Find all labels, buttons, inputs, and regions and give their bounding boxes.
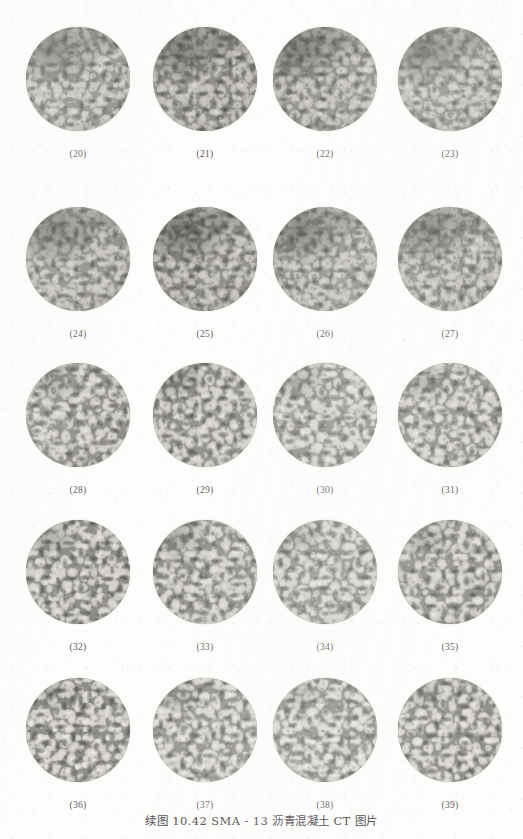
ct-image-label: (25): [146, 329, 264, 339]
ct-shading-overlay: [273, 207, 377, 311]
ct-image-label: (28): [19, 485, 137, 495]
ct-image-label: (20): [19, 149, 137, 159]
ct-slice-image: [273, 520, 377, 624]
ct-image-cell: (35): [391, 520, 509, 652]
ct-image-cell: (38): [266, 678, 384, 810]
ct-image-label: (26): [266, 329, 384, 339]
ct-shading-overlay: [153, 27, 257, 131]
ct-image-label: (38): [266, 800, 384, 810]
ct-image-label: (36): [19, 800, 137, 810]
ct-slice-image: [153, 27, 257, 131]
ct-image-label: (27): [391, 329, 509, 339]
ct-image-label: (22): [266, 149, 384, 159]
ct-shading-overlay: [153, 520, 257, 624]
ct-image-grid: (20)(21)(22)(23)(24)(25)(26)(27)(28)(29)…: [0, 0, 523, 812]
ct-image-cell: (25): [146, 207, 264, 339]
ct-image-cell: (27): [391, 207, 509, 339]
ct-slice-image: [26, 207, 130, 311]
ct-slice-image: [26, 678, 130, 782]
ct-image-label: (32): [19, 642, 137, 652]
ct-image-cell: (26): [266, 207, 384, 339]
ct-image-cell: (36): [19, 678, 137, 810]
ct-slice-image: [398, 363, 502, 467]
ct-image-label: (30): [266, 485, 384, 495]
ct-slice-image: [398, 520, 502, 624]
ct-image-cell: (28): [19, 363, 137, 495]
ct-slice-image: [26, 27, 130, 131]
ct-image-label: (34): [266, 642, 384, 652]
ct-image-label: (29): [146, 485, 264, 495]
ct-image-cell: (33): [146, 520, 264, 652]
ct-shading-overlay: [26, 678, 130, 782]
ct-shading-overlay: [26, 207, 130, 311]
ct-shading-overlay: [153, 363, 257, 467]
ct-image-label: (24): [19, 329, 137, 339]
ct-shading-overlay: [398, 207, 502, 311]
ct-slice-image: [26, 363, 130, 467]
ct-image-cell: (23): [391, 27, 509, 159]
ct-slice-image: [153, 363, 257, 467]
ct-image-cell: (34): [266, 520, 384, 652]
ct-image-cell: (30): [266, 363, 384, 495]
ct-shading-overlay: [398, 678, 502, 782]
ct-image-label: (35): [391, 642, 509, 652]
ct-image-cell: (21): [146, 27, 264, 159]
ct-image-label: (23): [391, 149, 509, 159]
ct-slice-image: [26, 520, 130, 624]
figure-caption: 续图 10.42 SMA - 13 沥青混凝土 CT 图片: [0, 812, 523, 828]
ct-slice-image: [398, 27, 502, 131]
ct-image-label: (31): [391, 485, 509, 495]
ct-slice-image: [273, 27, 377, 131]
ct-image-cell: (20): [19, 27, 137, 159]
ct-slice-image: [398, 678, 502, 782]
ct-image-cell: (32): [19, 520, 137, 652]
ct-slice-image: [273, 207, 377, 311]
ct-image-cell: (37): [146, 678, 264, 810]
ct-image-label: (21): [146, 149, 264, 159]
ct-image-label: (39): [391, 800, 509, 810]
ct-shading-overlay: [273, 520, 377, 624]
ct-image-cell: (29): [146, 363, 264, 495]
ct-slice-image: [273, 363, 377, 467]
ct-slice-image: [153, 520, 257, 624]
ct-shading-overlay: [26, 520, 130, 624]
ct-image-label: (37): [146, 800, 264, 810]
ct-shading-overlay: [26, 27, 130, 131]
ct-image-label: (33): [146, 642, 264, 652]
ct-shading-overlay: [398, 520, 502, 624]
ct-image-cell: (24): [19, 207, 137, 339]
ct-shading-overlay: [398, 27, 502, 131]
ct-slice-image: [153, 207, 257, 311]
ct-shading-overlay: [398, 363, 502, 467]
ct-shading-overlay: [273, 678, 377, 782]
ct-shading-overlay: [273, 27, 377, 131]
ct-image-cell: (39): [391, 678, 509, 810]
ct-slice-image: [273, 678, 377, 782]
ct-shading-overlay: [153, 678, 257, 782]
ct-slice-image: [153, 678, 257, 782]
ct-image-cell: (22): [266, 27, 384, 159]
ct-image-cell: (31): [391, 363, 509, 495]
ct-slice-image: [398, 207, 502, 311]
ct-shading-overlay: [273, 363, 377, 467]
ct-shading-overlay: [153, 207, 257, 311]
ct-shading-overlay: [26, 363, 130, 467]
